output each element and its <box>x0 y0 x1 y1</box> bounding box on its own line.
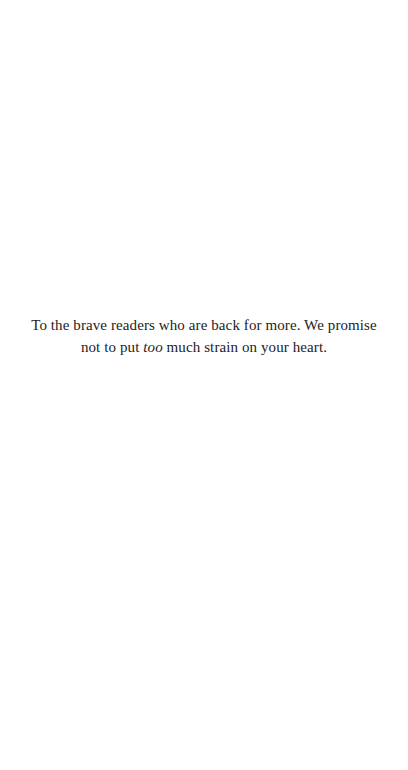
dedication-line-2: not to put too much strain on your heart… <box>81 339 327 355</box>
dedication-text: To the brave readers who are back for mo… <box>0 314 408 358</box>
book-page[interactable]: To the brave readers who are back for mo… <box>0 0 408 770</box>
dedication-line-1: To the brave readers who are back for mo… <box>31 317 377 333</box>
dedication-italic-word: too <box>143 339 162 355</box>
dedication-line-2-before: not to put <box>81 339 143 355</box>
dedication-line-2-after: much strain on your heart. <box>163 339 327 355</box>
